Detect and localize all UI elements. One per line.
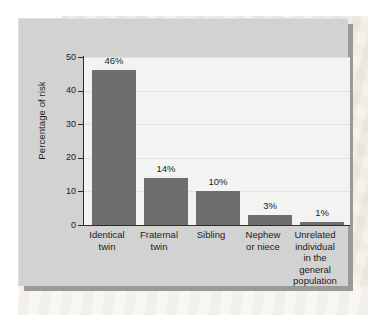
- y-axis-title: Percentage of risk: [36, 66, 47, 176]
- bar-sibling: [196, 191, 240, 225]
- bar-group-fraternal-twin: 14%: [144, 57, 188, 225]
- y-axis-line: [83, 56, 84, 226]
- y-tick-label-50: 50: [54, 53, 76, 62]
- bar-identical-twin: [92, 70, 136, 225]
- bar-group-identical-twin: 46%: [92, 57, 136, 225]
- y-tick-30: [78, 124, 83, 125]
- y-tick-50: [78, 57, 83, 58]
- x-axis-line: [83, 225, 350, 226]
- bar-value-label: 1%: [300, 208, 344, 218]
- y-tick-label-0: 0: [54, 221, 76, 230]
- bar-value-label: 14%: [144, 164, 188, 174]
- y-tick-40: [78, 91, 83, 92]
- y-tick-label-30: 30: [54, 120, 76, 129]
- bar-fraternal-twin: [144, 178, 188, 225]
- bar-value-label: 10%: [196, 177, 240, 187]
- plot-area: 46% 14% 10% 3% 1%: [84, 57, 350, 225]
- y-axis-tick-labels: 50 40 30 20 10 0: [52, 19, 76, 287]
- bar-value-label: 46%: [92, 56, 136, 66]
- y-tick-label-20: 20: [54, 153, 76, 162]
- page-left-margin: [0, 0, 18, 315]
- page-top-margin: [0, 0, 368, 16]
- bar-group-unrelated-individual: 1%: [300, 57, 344, 225]
- y-tick-0: [78, 225, 83, 226]
- y-tick-label-40: 40: [54, 86, 76, 95]
- bar-value-label: 3%: [248, 201, 292, 211]
- y-tick-label-10: 10: [54, 187, 76, 196]
- y-tick-20: [78, 158, 83, 159]
- chart-panel: 46% 14% 10% 3% 1% 50 40 30 20 10 0: [18, 18, 348, 286]
- bar-group-nephew-or-niece: 3%: [248, 57, 292, 225]
- y-tick-10: [78, 191, 83, 192]
- bar-group-sibling: 10%: [196, 57, 240, 225]
- category-label-unrelated-individual: Unrelated individual in the general popu…: [282, 229, 348, 287]
- bar-nephew-or-niece: [248, 215, 292, 225]
